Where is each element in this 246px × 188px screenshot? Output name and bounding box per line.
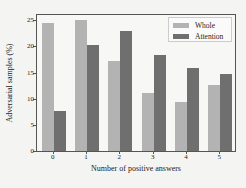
legend-label-attention: Attention	[195, 32, 223, 41]
bar-whole-5	[208, 85, 220, 151]
bar-whole-1	[75, 20, 87, 151]
legend-swatch-whole	[173, 23, 189, 28]
bar-whole-4	[175, 102, 187, 151]
x-tick-label: 2	[118, 154, 122, 161]
legend: Whole Attention	[168, 17, 232, 42]
x-tick-label: 5	[218, 154, 222, 161]
y-axis-label: Adversarial samples (%)	[5, 43, 14, 122]
y-tick-label: 10	[27, 95, 34, 102]
x-axis-label: Number of positive answers	[36, 164, 236, 173]
legend-swatch-attention	[173, 34, 189, 39]
x-tick-label: 3	[151, 154, 155, 161]
bar-attention-2	[120, 31, 132, 151]
y-tick-label: 0	[31, 148, 35, 155]
legend-item-attention: Attention	[173, 31, 223, 41]
bar-whole-3	[142, 93, 154, 151]
bar-attention-5	[220, 74, 232, 151]
bar-attention-1	[87, 45, 99, 151]
bar-whole-0	[42, 23, 54, 151]
x-tick-label: 0	[51, 154, 55, 161]
y-tick-label: 25	[27, 17, 34, 24]
x-tick-label: 4	[184, 154, 188, 161]
y-tick-label: 5	[31, 121, 35, 128]
bar-whole-2	[108, 61, 120, 151]
y-tick-label: 20	[27, 43, 34, 50]
bar-attention-4	[187, 68, 199, 151]
legend-label-whole: Whole	[195, 21, 215, 30]
x-tick-label: 1	[84, 154, 88, 161]
legend-item-whole: Whole	[173, 20, 215, 30]
bar-attention-3	[154, 55, 166, 151]
bar-attention-0	[54, 111, 66, 151]
y-tick-label: 15	[27, 69, 34, 76]
